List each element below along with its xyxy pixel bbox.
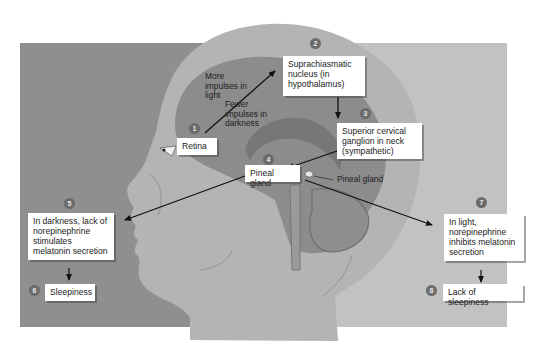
annotation-fewer-impulses: Fewer impulses in darkness bbox=[225, 100, 283, 129]
label-light-effect: In light, norepinephrine inhibits melato… bbox=[444, 214, 524, 261]
annotation-more-impulses: More impulses in light bbox=[205, 72, 253, 101]
step-badge-7: 7 bbox=[476, 197, 487, 208]
label-sleepiness: Sleepiness bbox=[45, 284, 95, 301]
step-badge-4: 4 bbox=[263, 154, 274, 165]
step-badge-2: 2 bbox=[310, 38, 321, 49]
annotation-pineal-gland: Pineal gland bbox=[337, 175, 397, 185]
label-pineal-gland: Pineal gland bbox=[245, 165, 300, 182]
brainstem bbox=[290, 185, 300, 270]
step-badge-3: 3 bbox=[360, 108, 371, 119]
label-darkness-effect: In darkness, lack of norepinephrine stim… bbox=[28, 213, 114, 260]
label-superior-cervical-ganglion: Superior cervical ganglion in neck (symp… bbox=[337, 123, 422, 159]
eye-pupil bbox=[162, 148, 165, 151]
step-badge-5: 5 bbox=[64, 198, 75, 209]
diagram: 1 2 3 4 5 6 7 8 Retina Suprachiasmatic n… bbox=[0, 0, 547, 355]
label-retina: Retina bbox=[177, 138, 217, 155]
step-badge-6: 6 bbox=[29, 285, 40, 296]
label-lack-of-sleepiness: Lack of sleepiness bbox=[443, 284, 523, 301]
pineal-gland-shape bbox=[305, 171, 313, 177]
label-suprachiasmatic-nucleus: Suprachiasmatic nucleus (in hypothalamus… bbox=[283, 56, 365, 96]
step-badge-8: 8 bbox=[426, 285, 437, 296]
step-badge-1: 1 bbox=[189, 123, 200, 134]
